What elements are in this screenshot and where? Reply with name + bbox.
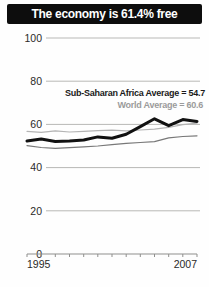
world-average-annotation: World Average = 60.6 [118, 100, 204, 110]
freedom-score-chart: 100806040200 Sub-Saharan Africa Average … [0, 0, 209, 287]
x-axis-label-end: 2007 [174, 258, 198, 270]
x-axis [27, 254, 197, 257]
x-axis-label-start: 1995 [27, 258, 51, 270]
ssa-average-annotation: Sub-Saharan Africa Average = 54.7 [65, 88, 205, 98]
y-axis-label: 40 [30, 161, 42, 173]
y-axis-label: 20 [30, 205, 42, 217]
y-axis-label: 60 [30, 118, 42, 130]
country-freedom-chart-card: The economy is 61.4% free 100806040200 S… [0, 0, 209, 287]
gridlines [46, 38, 200, 211]
y-axis-label: 100 [24, 32, 42, 44]
data-lines [27, 119, 197, 149]
y-axis-label: 80 [30, 75, 42, 87]
